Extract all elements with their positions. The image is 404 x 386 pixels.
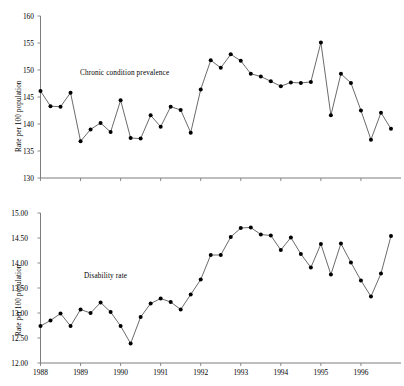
y-tick-label-bottom-14: 14.00 xyxy=(11,260,28,267)
series-annotation-chronic-condition-prevalence: Chronic condition prevalence xyxy=(80,69,169,77)
x-tick-label-1995: 1995 xyxy=(306,369,336,376)
y-tick-label-bottom-13: 13.00 xyxy=(11,310,28,317)
y-tick-label-top-140: 140 xyxy=(23,121,34,128)
chart-panel-disability-rate: Rate per 100 population 15.00 14.50 14.0… xyxy=(0,196,404,386)
x-tick-label-1996: 1996 xyxy=(346,369,376,376)
plot-area-top xyxy=(0,0,404,196)
x-tick-label-1988: 1988 xyxy=(26,369,56,376)
y-tick-label-bottom-12-50: 12.50 xyxy=(11,335,28,342)
y-tick-label-bottom-14-50: 14.50 xyxy=(11,235,28,242)
y-axis-title-bottom: Rate per 100 population xyxy=(15,264,23,336)
y-tick-label-top-160: 160 xyxy=(23,13,34,20)
y-tick-label-top-155: 155 xyxy=(23,40,34,47)
y-tick-label-top-150: 150 xyxy=(23,67,34,74)
y-tick-label-bottom-13-50: 13.50 xyxy=(11,285,28,292)
x-tick-label-1990: 1990 xyxy=(106,369,136,376)
figure-two-line-charts: Rate per 100 population 160 155 150 145 … xyxy=(0,0,404,386)
y-tick-label-bottom-15: 15.00 xyxy=(11,210,28,217)
x-tick-label-1989: 1989 xyxy=(66,369,96,376)
chart-panel-chronic-condition-prevalence: Rate per 100 population 160 155 150 145 … xyxy=(0,0,404,196)
y-tick-label-top-145: 145 xyxy=(23,94,34,101)
series-annotation-disability-rate: Disability rate xyxy=(84,272,127,280)
y-tick-label-top-135: 135 xyxy=(23,148,34,155)
x-tick-label-1992: 1992 xyxy=(186,369,216,376)
x-tick-label-1994: 1994 xyxy=(266,369,296,376)
x-tick-label-1993: 1993 xyxy=(226,369,256,376)
y-tick-label-top-130: 130 xyxy=(23,175,34,182)
y-tick-label-bottom-12: 12.00 xyxy=(11,360,28,367)
x-tick-label-1991: 1991 xyxy=(146,369,176,376)
y-axis-title-top: Rate per 100 population xyxy=(15,80,23,152)
plot-area-bottom xyxy=(0,196,404,386)
